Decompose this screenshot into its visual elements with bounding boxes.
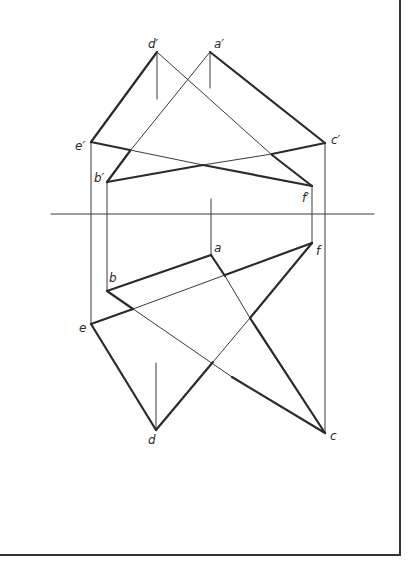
edge-bc-thick-start [107, 291, 133, 309]
label-b-prime: b′ [94, 172, 104, 184]
drawing-svg [0, 0, 409, 561]
label-d: d [148, 434, 156, 446]
edge-a'c' [210, 52, 325, 143]
label-f: f [316, 245, 320, 257]
edge-e'f'-thick [91, 142, 130, 150]
label-e-prime: e′ [75, 140, 85, 152]
edge-e'f'-thin [130, 150, 203, 165]
triangle-edges [91, 52, 325, 433]
label-a-prime: a′ [214, 38, 224, 50]
edge-b'c'-thick2 [272, 143, 325, 154]
edge-ac-thick1 [211, 255, 225, 276]
edge-b'c'-thick [107, 165, 203, 182]
edge-ac-thick2 [250, 318, 325, 433]
label-c-prime: c′ [331, 134, 340, 146]
edge-ef-thin [133, 275, 225, 309]
label-c: c [330, 430, 337, 442]
label-a: a [214, 242, 221, 254]
label-b: b [109, 272, 117, 284]
label-f-prime: f′ [302, 192, 309, 204]
edge-e'f'-thick2 [203, 165, 312, 186]
edge-ef-thick1 [91, 309, 133, 324]
edge-df-thick [156, 362, 213, 430]
edge-a'b'-thick [107, 151, 130, 182]
edge-bc-thick [232, 377, 325, 433]
label-e: e [79, 322, 86, 334]
projection-drawing: d′ a′ e′ c′ b′ f′ a f b e d c [0, 0, 409, 561]
edge-d'e' [91, 52, 157, 142]
edge-de [91, 324, 156, 430]
edge-a'b'-thin [130, 52, 210, 151]
frame-border [0, 0, 400, 555]
projection-lines [91, 142, 325, 433]
label-d-prime: d′ [148, 38, 158, 50]
edge-b'c'-thin [203, 154, 272, 165]
edge-df-thin [213, 318, 250, 362]
edge-d'f'-thin [157, 52, 272, 155]
edge-ac-thin [225, 276, 250, 318]
